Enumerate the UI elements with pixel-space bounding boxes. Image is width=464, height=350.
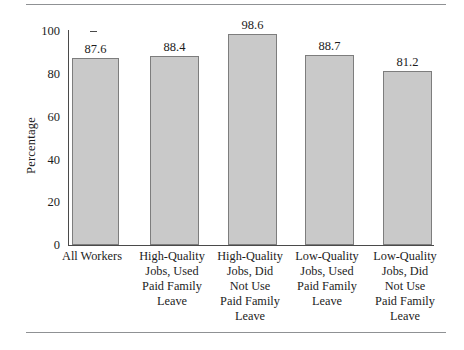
bar-1[interactable] bbox=[150, 56, 199, 245]
x-axis-label-3: Low-Quality Jobs, Used Paid Family Leave bbox=[288, 249, 366, 309]
bar-4[interactable] bbox=[383, 71, 432, 245]
bar-value-4: 81.2 bbox=[383, 56, 432, 69]
x-axis-label-2: High-Quality Jobs, Did Not Use Paid Fami… bbox=[211, 249, 289, 324]
bar-group-4: 81.2 bbox=[383, 31, 432, 245]
x-axis-label-0: All Workers bbox=[55, 249, 129, 264]
y-tick-label-100: 100 bbox=[32, 25, 60, 37]
bar-3[interactable] bbox=[305, 55, 354, 245]
bar-group-1: 88.4 bbox=[150, 31, 199, 245]
bar-chart-figure: 100 80 60 40 20 0 Percentage 87.6 88.4 9… bbox=[0, 0, 464, 350]
y-axis-title: Percentage bbox=[24, 101, 39, 191]
top-divider-rule bbox=[26, 4, 446, 5]
x-axis-label-1: High-Quality Jobs, Used Paid Family Leav… bbox=[133, 249, 211, 309]
bar-group-2: 98.6 bbox=[228, 31, 277, 245]
plot-area: 87.6 88.4 98.6 88.7 81.2 bbox=[68, 31, 434, 245]
bar-group-0: 87.6 bbox=[72, 31, 119, 245]
bar-value-3: 88.7 bbox=[305, 40, 354, 53]
y-tick-label-80: 80 bbox=[32, 68, 60, 80]
bar-value-2: 98.6 bbox=[228, 19, 277, 32]
bar-2[interactable] bbox=[228, 34, 277, 245]
y-tick-label-20: 20 bbox=[32, 196, 60, 208]
bar-value-1: 88.4 bbox=[150, 41, 199, 54]
bar-0[interactable] bbox=[72, 58, 119, 246]
bar-value-0: 87.6 bbox=[72, 43, 119, 56]
y-tick-mark-0 bbox=[90, 245, 97, 246]
x-axis-label-4: Low-Quality Jobs, Did Not Use Paid Famil… bbox=[366, 249, 444, 324]
bar-group-3: 88.7 bbox=[305, 31, 354, 245]
bottom-divider-rule bbox=[26, 332, 446, 333]
x-axis-line bbox=[68, 245, 434, 246]
